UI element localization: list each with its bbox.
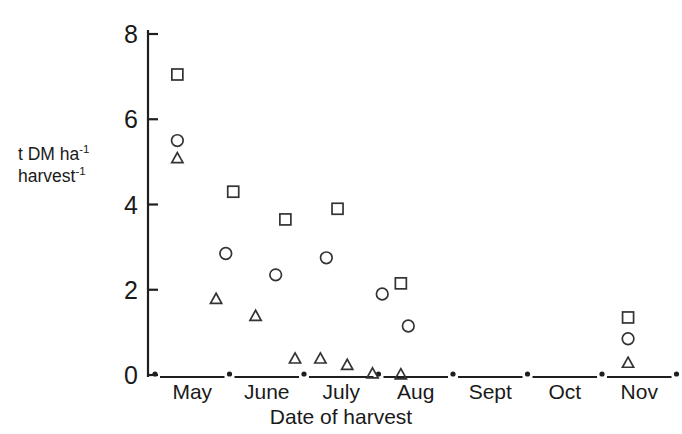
data-point-triangle-0 bbox=[172, 153, 183, 163]
data-point-square-0 bbox=[172, 69, 183, 80]
x-axis-label-june: June bbox=[244, 380, 290, 403]
data-point-triangle-3 bbox=[289, 353, 300, 363]
y-tick-label-2: 2 bbox=[124, 276, 138, 304]
data-point-square-5 bbox=[623, 312, 634, 323]
x-tick-dot-5 bbox=[525, 371, 530, 376]
data-point-triangle-2 bbox=[250, 310, 261, 320]
x-tick-dot-2 bbox=[301, 371, 306, 376]
data-point-circle-3 bbox=[321, 252, 333, 264]
series-triangle bbox=[172, 153, 634, 379]
x-axis-month-labels: MayJuneJulyAugSeptOctNov bbox=[172, 380, 658, 403]
x-axis-label-may: May bbox=[172, 380, 212, 403]
chart-figure: t DM ha-1 harvest-1 02468 MayJuneJulyAug… bbox=[0, 0, 682, 434]
data-point-square-2 bbox=[280, 214, 291, 225]
data-point-circle-4 bbox=[376, 288, 388, 300]
x-axis-title: Date of harvest bbox=[270, 405, 413, 428]
y-tick-label-8: 8 bbox=[124, 20, 138, 48]
x-tick-dot-7 bbox=[674, 371, 679, 376]
data-point-triangle-4 bbox=[315, 353, 326, 363]
x-tick-dot-4 bbox=[450, 371, 455, 376]
data-point-circle-1 bbox=[220, 248, 232, 260]
y-tick-label-4: 4 bbox=[124, 191, 138, 219]
y-tick-label-6: 6 bbox=[124, 105, 138, 133]
data-point-circle-6 bbox=[622, 333, 634, 345]
y-tick-label-0: 0 bbox=[124, 361, 138, 389]
data-point-square-4 bbox=[395, 278, 406, 289]
x-axis-label-nov: Nov bbox=[621, 380, 659, 403]
series-square bbox=[172, 69, 634, 323]
x-tick-dot-1 bbox=[227, 371, 232, 376]
data-point-square-1 bbox=[228, 186, 239, 197]
data-point-circle-5 bbox=[403, 320, 415, 332]
x-axis-tick-dots bbox=[152, 371, 679, 376]
data-point-circle-2 bbox=[270, 269, 282, 281]
x-axis-label-july: July bbox=[323, 380, 361, 403]
y-axis: 02468 bbox=[124, 20, 158, 389]
x-tick-dot-0 bbox=[152, 371, 157, 376]
x-tick-dot-6 bbox=[599, 371, 604, 376]
data-point-triangle-1 bbox=[210, 293, 221, 303]
y-axis-tick-labels: 02468 bbox=[124, 20, 138, 389]
data-point-triangle-8 bbox=[622, 357, 633, 367]
x-axis-label-aug: Aug bbox=[397, 380, 434, 403]
data-point-circle-0 bbox=[172, 135, 184, 147]
series-circle bbox=[172, 135, 634, 345]
x-axis-label-oct: Oct bbox=[548, 380, 581, 403]
x-axis: MayJuneJulyAugSeptOctNov bbox=[152, 371, 679, 403]
data-point-square-3 bbox=[332, 203, 343, 214]
data-point-markers bbox=[172, 69, 634, 379]
x-axis-label-sept: Sept bbox=[469, 380, 512, 403]
data-point-triangle-5 bbox=[342, 359, 353, 369]
y-axis-ticks bbox=[148, 34, 158, 375]
scatter-plot: 02468 MayJuneJulyAugSeptOctNov Date of h… bbox=[0, 0, 682, 434]
